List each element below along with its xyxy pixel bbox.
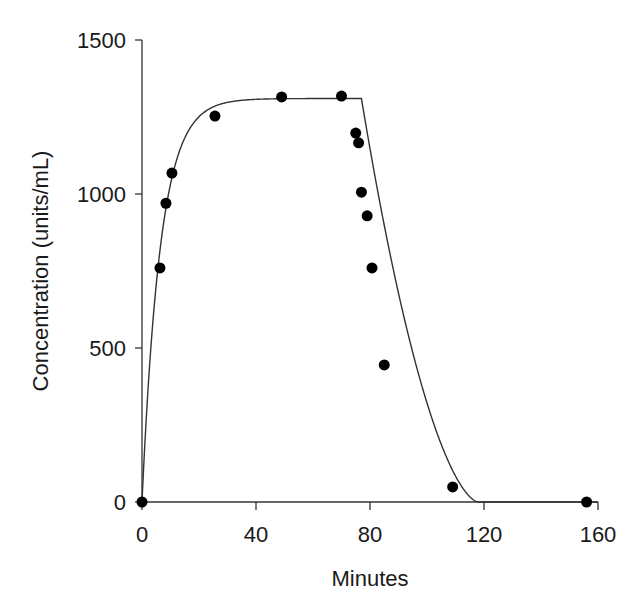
y-tick-label: 500 bbox=[89, 336, 126, 361]
data-point bbox=[209, 111, 220, 122]
y-tick-label: 1500 bbox=[77, 28, 126, 53]
y-axis-title: Concentration (units/mL) bbox=[28, 151, 53, 392]
model-fit-curve bbox=[142, 99, 598, 502]
x-tick-label: 40 bbox=[244, 522, 268, 547]
y-tick-label: 0 bbox=[114, 490, 126, 515]
y-axis-ticks bbox=[135, 40, 142, 502]
axes bbox=[135, 40, 598, 510]
data-point bbox=[350, 128, 361, 139]
data-point bbox=[276, 91, 287, 102]
x-tick-label: 0 bbox=[136, 522, 148, 547]
concentration-chart: 050010001500 04080120160 Minutes Concent… bbox=[0, 0, 638, 610]
data-points bbox=[137, 91, 593, 508]
x-axis-title: Minutes bbox=[331, 566, 408, 591]
x-tick-labels: 04080120160 bbox=[136, 522, 616, 547]
y-tick-labels: 050010001500 bbox=[77, 28, 126, 515]
data-point bbox=[137, 497, 148, 508]
data-point bbox=[166, 168, 177, 179]
data-point bbox=[379, 359, 390, 370]
x-axis-ticks bbox=[142, 502, 598, 510]
data-point bbox=[356, 187, 367, 198]
x-tick-label: 120 bbox=[466, 522, 503, 547]
data-point bbox=[336, 91, 347, 102]
y-tick-label: 1000 bbox=[77, 182, 126, 207]
x-tick-label: 160 bbox=[580, 522, 617, 547]
data-point bbox=[353, 137, 364, 148]
data-point bbox=[447, 481, 458, 492]
data-point bbox=[581, 497, 592, 508]
x-tick-label: 80 bbox=[358, 522, 382, 547]
data-point bbox=[362, 210, 373, 221]
data-point bbox=[160, 198, 171, 209]
data-point bbox=[366, 262, 377, 273]
data-point bbox=[154, 262, 165, 273]
